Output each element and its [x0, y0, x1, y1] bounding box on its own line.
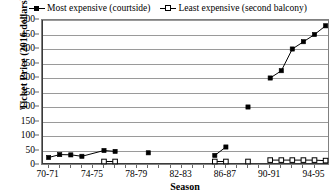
chart-legend: Most expensive (courtside) Least expensi… — [0, 0, 336, 16]
data-point-filled-square — [80, 154, 84, 158]
x-axis-labels: 70-7174-7578-7982-8386-8790-9194-95 — [41, 169, 329, 181]
x-axis-title: Season — [41, 181, 329, 192]
x-axis-tick — [70, 165, 71, 168]
data-point-filled-square — [58, 153, 62, 157]
legend-entry-most-expensive: Most expensive (courtside) — [29, 3, 150, 13]
x-axis-tick — [192, 165, 193, 168]
data-point-filled-square — [312, 32, 316, 36]
filled-square-marker-icon — [29, 4, 45, 13]
y-axis-tick — [35, 135, 39, 136]
x-axis-tick — [92, 165, 93, 168]
data-point-filled-square — [246, 105, 250, 109]
legend-label-least-expensive: Least expensive (second balcony) — [178, 3, 306, 13]
y-axis-tick-label: 150 — [21, 116, 35, 126]
data-point-filled-square — [69, 153, 73, 157]
x-axis-tick — [214, 165, 215, 168]
series-most-expensive — [47, 24, 328, 160]
x-axis-tick — [170, 165, 171, 168]
series-least-expensive — [102, 158, 328, 164]
data-point-open-square — [102, 159, 107, 164]
data-point-open-square — [268, 158, 273, 163]
chart-figure: Most expensive (courtside) Least expensi… — [0, 0, 336, 196]
data-point-open-square — [213, 159, 218, 164]
y-axis-tick-label: 350 — [21, 58, 35, 68]
open-square-marker-icon — [160, 4, 176, 13]
data-point-filled-square — [268, 76, 272, 80]
x-axis-tick — [280, 165, 281, 168]
y-axis-tick-label: 400 — [21, 43, 35, 53]
y-axis-tick — [35, 106, 39, 107]
data-point-filled-square — [146, 151, 150, 155]
x-axis-tick — [291, 165, 292, 168]
data-point-open-square — [224, 159, 229, 164]
data-point-open-square — [312, 158, 317, 163]
y-axis-tick — [35, 77, 39, 78]
x-axis-tick — [147, 165, 148, 168]
x-axis-tick-label: 82-83 — [170, 169, 192, 180]
y-axis-tick — [35, 19, 39, 20]
x-axis-tick — [136, 165, 137, 168]
data-point-open-square — [323, 158, 328, 163]
x-axis-tick — [258, 165, 259, 168]
data-point-filled-square — [290, 47, 294, 51]
data-point-filled-square — [279, 69, 283, 73]
x-axis-tick-label: 86-87 — [214, 169, 236, 180]
x-axis-tick — [81, 165, 82, 168]
data-point-filled-square — [324, 24, 328, 28]
x-axis-tick-label: 74-75 — [81, 169, 103, 180]
x-axis-tick — [103, 165, 104, 168]
y-axis-tick-label: 200 — [21, 101, 35, 111]
plot-area — [41, 19, 329, 165]
y-axis-tick-label: 450 — [21, 29, 35, 39]
x-axis-tick — [247, 165, 248, 168]
y-axis-tick-label: 500 — [21, 14, 35, 24]
x-axis-tick — [158, 165, 159, 168]
data-point-open-square — [301, 158, 306, 163]
data-point-open-square — [290, 158, 295, 163]
y-axis-tick-label: 100 — [21, 130, 35, 140]
data-point-filled-square — [213, 153, 217, 157]
data-point-open-square — [246, 159, 251, 164]
x-axis-tick — [269, 165, 270, 168]
data-point-open-square — [113, 159, 118, 164]
data-series-layer — [42, 20, 330, 166]
legend-label-most-expensive: Most expensive (courtside) — [47, 3, 150, 13]
legend-entry-least-expensive: Least expensive (second balcony) — [160, 3, 306, 13]
x-axis-tick — [125, 165, 126, 168]
x-axis-tick — [114, 165, 115, 168]
data-point-filled-square — [113, 149, 117, 153]
y-axis-tick — [35, 48, 39, 49]
data-point-open-square — [279, 158, 284, 163]
y-axis-tick — [35, 164, 39, 165]
y-axis-tick — [35, 62, 39, 63]
data-point-filled-square — [301, 40, 305, 44]
y-axis-tick — [35, 149, 39, 150]
x-axis-tick — [59, 165, 60, 168]
data-point-filled-square — [47, 155, 51, 159]
data-point-filled-square — [224, 145, 228, 149]
data-point-filled-square — [102, 148, 106, 152]
y-axis-tick — [35, 91, 39, 92]
x-axis-tick — [302, 165, 303, 168]
y-axis-labels: 050100150200250300350400450500 — [0, 19, 38, 165]
x-axis-tick — [203, 165, 204, 168]
y-axis-tick-label: 300 — [21, 72, 35, 82]
x-axis-tick — [181, 165, 182, 168]
y-axis-tick — [35, 33, 39, 34]
x-axis-tick-label: 90-91 — [258, 169, 280, 180]
x-axis-tick-label: 94-95 — [302, 169, 324, 180]
x-axis-tick-label: 70-71 — [37, 169, 59, 180]
y-axis-tick-label: 250 — [21, 87, 35, 97]
x-axis-tick-label: 78-79 — [125, 169, 147, 180]
y-axis-tick — [35, 120, 39, 121]
y-axis-tick-label: 50 — [26, 145, 36, 155]
x-axis-tick — [225, 165, 226, 168]
x-axis-tick — [48, 165, 49, 168]
x-axis-tick — [314, 165, 315, 168]
series-line-segment — [270, 26, 325, 78]
x-axis-tick — [236, 165, 237, 168]
